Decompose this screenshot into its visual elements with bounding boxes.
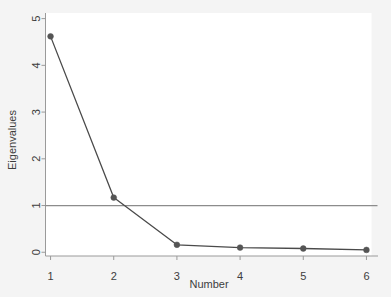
x-axis-title: Number: [189, 278, 228, 290]
x-tick-label: 5: [300, 270, 306, 282]
x-tick-label: 1: [47, 270, 53, 282]
y-tick-label: 4: [31, 62, 43, 68]
data-point-marker: [300, 246, 306, 252]
data-point-marker: [237, 245, 243, 251]
data-point-marker: [111, 195, 117, 201]
data-point-marker: [364, 247, 370, 253]
x-tick-label: 2: [111, 270, 117, 282]
y-tick-label: 5: [31, 16, 43, 22]
y-tick-label: 0: [31, 249, 43, 255]
y-tick-label: 3: [31, 109, 43, 115]
data-point-marker: [48, 33, 54, 39]
y-axis-title: Eigenvalues: [6, 110, 18, 170]
x-tick-label: 3: [174, 270, 180, 282]
x-tick-label: 6: [363, 270, 369, 282]
y-tick-label: 2: [31, 156, 43, 162]
plot-area-background: [46, 13, 372, 256]
chart-canvas: 012345 123456 Eigenvalues Number: [0, 0, 391, 297]
scree-plot-figure: 012345 123456 Eigenvalues Number: [0, 0, 391, 297]
y-tick-label: 1: [31, 202, 43, 208]
x-tick-label: 4: [237, 270, 243, 282]
data-point-marker: [174, 242, 180, 248]
